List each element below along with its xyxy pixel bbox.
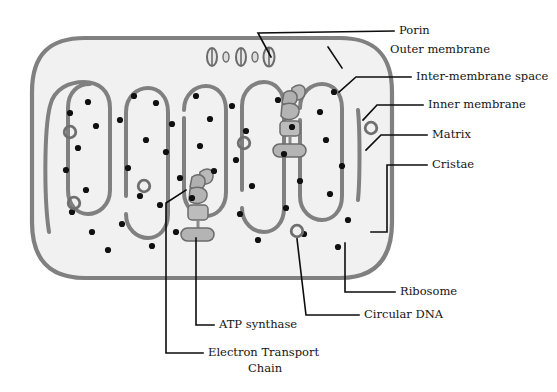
porin-channel-2 <box>236 48 246 66</box>
ribosome-dot <box>93 123 99 129</box>
etc-subunit-4 <box>188 205 208 220</box>
ribosome-dot <box>289 124 295 130</box>
ribosome-dot <box>157 202 163 208</box>
label-matrix: Matrix <box>432 127 471 141</box>
ribosome-dot <box>63 167 69 173</box>
ribosome-dot <box>83 187 89 193</box>
ribosome-dot <box>163 149 169 155</box>
ribosome-dot <box>243 128 249 134</box>
ribosome-dot <box>173 229 179 235</box>
label-atp-synthase: ATP synthase <box>218 317 297 331</box>
ribosome-dot <box>169 121 175 127</box>
atp-synthase-base <box>273 144 306 157</box>
outer-membrane-path <box>32 38 392 278</box>
ribosome-dot <box>255 237 261 243</box>
label-inner-membrane: Inner membrane <box>428 97 526 111</box>
atp-synthase-base <box>181 228 214 241</box>
ribosome-dot <box>335 244 341 250</box>
ribosome-dot <box>67 110 73 116</box>
ribosome-dot <box>149 243 155 249</box>
label-circular-dna: Circular DNA <box>364 307 444 321</box>
ribosome-dot <box>75 145 81 151</box>
ribosome-dot <box>189 195 195 201</box>
ribosome-dot <box>211 168 217 174</box>
ribosome-dot <box>323 137 329 143</box>
etc-subunit-3 <box>281 103 299 119</box>
ribosome-dot <box>197 143 203 149</box>
ribosome-dot <box>317 109 323 115</box>
label-ribosome: Ribosome <box>400 284 457 298</box>
porin-channel-1 <box>207 48 217 66</box>
ribosome-dot <box>119 221 125 227</box>
ribosome-dot <box>249 183 255 189</box>
ribosome-dot <box>275 97 281 103</box>
ribosome-dot <box>297 178 303 184</box>
ribosome-dot <box>105 247 111 253</box>
label-electron-transport-chain-line2: Chain <box>248 361 283 375</box>
ribosome-dot <box>193 93 199 99</box>
ribosome-dot <box>331 89 337 95</box>
label-porin: Porin <box>399 23 430 37</box>
ribosome-dot <box>229 103 235 109</box>
ribosome-dot <box>177 175 183 181</box>
ribosome-dot <box>327 191 333 197</box>
label-inter-membrane-space: Inter-membrane space <box>416 69 549 83</box>
ribosome-dot <box>85 99 91 105</box>
label-outer-membrane: Outer membrane <box>390 42 490 56</box>
mitochondrion-illustration: Porin Outer membrane Inter-membrane spac… <box>0 0 557 392</box>
porin-channel-3 <box>264 48 275 67</box>
ribosome-dot <box>233 157 239 163</box>
ribosome-dot <box>125 165 131 171</box>
outer-membrane-group <box>32 38 392 278</box>
ribosome-dot <box>131 93 137 99</box>
ribosome-dot <box>339 163 345 169</box>
mitochondrion-diagram: Porin Outer membrane Inter-membrane spac… <box>0 0 557 392</box>
ribosome-dot <box>89 229 95 235</box>
ribosome-dot <box>207 116 213 122</box>
ribosome-dot <box>237 211 243 217</box>
label-electron-transport-chain-line1: Electron Transport <box>208 345 320 359</box>
ribosome-dot <box>281 151 287 157</box>
ribosome-dot <box>283 205 289 211</box>
ribosome-dot <box>143 137 149 143</box>
ribosome-dot <box>137 193 143 199</box>
porin-channel-small-b <box>252 52 258 62</box>
ribosome-dot <box>153 100 159 106</box>
label-cristae: Cristae <box>432 157 474 171</box>
ribosome-dot <box>117 117 123 123</box>
porin-channel-small-a <box>223 52 229 62</box>
ribosome-dot <box>345 217 351 223</box>
